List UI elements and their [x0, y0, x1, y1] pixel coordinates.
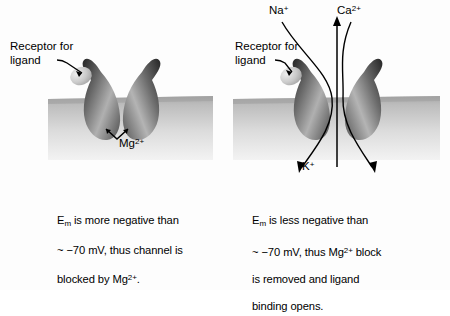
caption-line-1-rest: is more negative than: [71, 214, 179, 226]
channel-subunit-right-open: [345, 59, 383, 140]
caption-open-line-2-pre: ~ −70 mV, thus Mg: [252, 246, 344, 258]
caption-open-channel: Em is less negative than ~ −70 mV, thus …: [252, 200, 432, 316]
caption-open-line-2-post: block: [353, 246, 382, 258]
caption-open-line-4: binding opens.: [252, 300, 432, 314]
caption-open-line-1-rest: is less negative than: [266, 214, 368, 226]
na-charge: +: [284, 4, 289, 13]
receptor-label-open: Receptor for ligand: [235, 40, 345, 67]
k-symbol: K: [302, 160, 310, 172]
ca-charge: 2+: [352, 4, 361, 13]
calcium-ion-label: Ca2+: [337, 4, 361, 16]
caption-open-line-2: ~ −70 mV, thus Mg2+ block: [252, 244, 432, 260]
potassium-ion-label: K+: [302, 160, 314, 172]
caption-line-3-charge: 2+: [128, 273, 137, 282]
em-subscript: m: [64, 219, 71, 228]
caption-line-1: Em is more negative than: [57, 214, 222, 231]
mg-charge: 2+: [135, 137, 144, 146]
caption-line-3: blocked by Mg2+.: [57, 271, 222, 287]
caption-open-line-1: Em is less negative than: [252, 214, 432, 231]
caption-line-3-post: .: [137, 273, 140, 285]
caption-closed-channel: Em is more negative than ~ −70 mV, thus …: [57, 200, 222, 300]
k-charge: +: [310, 160, 315, 169]
channel-subunit-right-closed: [123, 59, 161, 140]
mg-symbol: Mg: [119, 137, 135, 149]
closed-channel-illustration: [0, 0, 225, 195]
panel-closed-channel: Receptor for ligand Mg2+ Em is more nega…: [0, 0, 225, 290]
potassium-right-arrowhead: [369, 161, 377, 173]
caption-line-3-pre: blocked by Mg: [57, 273, 128, 285]
sodium-ion-label: Na+: [269, 4, 288, 16]
open-channel-illustration: [225, 0, 450, 195]
caption-line-2: ~ −70 mV, thus channel is: [57, 244, 222, 258]
receptor-label-open-line2: ligand: [235, 54, 266, 66]
panel-open-channel: Receptor for ligand Na+ Ca2+ K+ Em is le…: [225, 0, 450, 290]
receptor-label-line2: ligand: [10, 54, 41, 66]
ca-symbol: Ca: [337, 4, 352, 16]
receptor-label-closed: Receptor for ligand: [10, 40, 120, 67]
receptor-label-open-line1: Receptor for: [235, 40, 298, 52]
em-subscript-open: m: [259, 219, 266, 228]
receptor-label-line1: Receptor for: [10, 40, 73, 52]
central-up-arrowhead: [333, 16, 341, 26]
magnesium-ion-label: Mg2+: [119, 137, 144, 149]
na-symbol: Na: [269, 4, 284, 16]
caption-open-line-2-charge: 2+: [344, 246, 353, 255]
caption-open-line-3: is removed and ligand: [252, 273, 432, 287]
